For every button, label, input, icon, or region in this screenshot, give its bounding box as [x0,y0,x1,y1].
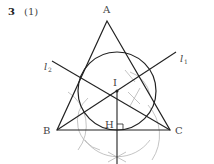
label-h: H [105,119,114,130]
svg-text:l: l [180,53,183,64]
svg-text:1: 1 [184,58,188,65]
label-l2: l 2 [44,61,52,73]
label-a: A [102,4,111,15]
svg-text:2: 2 [48,66,52,73]
label-l1: l 1 [180,53,188,65]
label-c: C [175,125,183,136]
geometry-diagram: 3 (1) A B C I H l 1 l 2 [0,0,214,164]
svg-text:l: l [44,61,47,72]
label-i: I [113,77,117,88]
problem-number: 3 [8,6,15,17]
problem-part: (1) [24,6,38,17]
point-i-dot [116,90,119,93]
label-b: B [43,125,50,136]
